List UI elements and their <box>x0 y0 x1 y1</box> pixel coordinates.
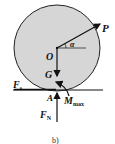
label-a: A <box>46 93 53 103</box>
free-body-diagram: P α O G Fs A FN Mmax b) <box>0 0 115 144</box>
label-g: G <box>45 69 53 80</box>
label-mmax: Mmax <box>63 95 84 107</box>
caption: b) <box>52 136 59 144</box>
label-fn: FN <box>39 109 52 121</box>
label-p: P <box>102 22 109 34</box>
label-fs: Fs <box>12 79 23 91</box>
label-alpha: α <box>70 40 75 49</box>
label-o: O <box>46 51 53 62</box>
